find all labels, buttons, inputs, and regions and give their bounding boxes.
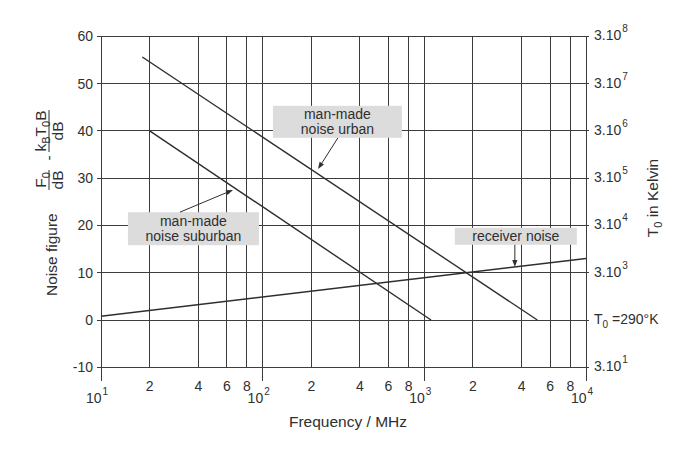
y-tick-label: 60 xyxy=(77,28,93,44)
annotation-label: receiver noise xyxy=(472,228,559,244)
right-axis-title: T0 in Kelvin xyxy=(644,159,664,238)
y-tick-label: 40 xyxy=(77,123,93,139)
gridlines xyxy=(97,36,589,381)
x-minor-tick-label: 6 xyxy=(385,378,393,394)
noise-figure-chart: man-madenoise urbanman-madenoise suburba… xyxy=(0,0,699,450)
y-title-operator: - xyxy=(40,155,57,160)
series-man-made-noise-urban xyxy=(142,57,537,320)
annotation-label: noise suburban xyxy=(146,228,242,244)
series-receiver-noise xyxy=(101,259,586,317)
annotation-label: man-made xyxy=(304,106,371,122)
x-axis-title: Frequency / MHz xyxy=(289,413,407,430)
y-tick-label: 30 xyxy=(77,170,93,186)
arrow-line xyxy=(322,138,338,163)
x-decade-tick-label: 103 xyxy=(409,386,432,406)
right-tick-label: 3.107 xyxy=(594,71,628,91)
x-minor-tick-label: 4 xyxy=(356,378,364,394)
y-tick-label: 20 xyxy=(77,217,93,233)
y-tick-label: 10 xyxy=(77,265,93,281)
y-title-fraction-1: F0dB xyxy=(32,170,66,190)
x-minor-tick-label: 2 xyxy=(146,378,154,394)
y-axis-tick-labels: -100102030405060 xyxy=(73,28,93,375)
y-tick-label: -10 xyxy=(73,359,93,375)
chart-canvas: man-madenoise urbanman-madenoise suburba… xyxy=(0,0,699,450)
x-minor-tick-label: 2 xyxy=(307,378,315,394)
annotation-label: man-made xyxy=(160,213,227,229)
right-tick-label: 3.108 xyxy=(594,23,628,43)
right-tick-label: 3.104 xyxy=(594,212,628,232)
arrowhead-icon xyxy=(318,162,324,169)
arrow-line xyxy=(180,193,227,213)
annotations: man-madenoise urbanman-madenoise suburba… xyxy=(128,106,577,267)
right-tick-label: 3.105 xyxy=(594,165,628,185)
right-tick-label: T0 =290°K xyxy=(594,311,659,330)
x-minor-tick-label: 6 xyxy=(546,378,554,394)
right-tick-label: 3.106 xyxy=(594,118,628,138)
data-series xyxy=(101,57,586,320)
x-minor-tick-label: 4 xyxy=(518,378,526,394)
y-tick-label: 50 xyxy=(77,76,93,92)
x-decade-tick-label: 104 xyxy=(571,386,594,406)
x-minor-tick-label: 6 xyxy=(223,378,231,394)
annotation-urban: man-madenoise urban xyxy=(273,106,402,169)
x-axis-tick-labels: 246824682468101102103104 xyxy=(86,378,594,406)
x-minor-tick-label: 4 xyxy=(194,378,202,394)
y-axis-title: Noise figureF0dB-kBT0BdB xyxy=(32,110,66,296)
x-decade-tick-label: 101 xyxy=(86,386,109,406)
annotation-suburban: man-madenoise suburban xyxy=(128,190,259,245)
y-title-fraction-2: kBT0BdB xyxy=(32,110,66,152)
annotation-label: noise urban xyxy=(301,121,374,137)
right-axis-title-text: T0 in Kelvin xyxy=(644,159,664,238)
y-tick-label: 0 xyxy=(85,312,93,328)
y-axis-title-text: Noise figure xyxy=(43,213,60,296)
x-minor-tick-label: 2 xyxy=(469,378,477,394)
arrowhead-icon xyxy=(512,260,517,267)
fraction-denominator: dB xyxy=(49,171,66,190)
x-decade-tick-label: 102 xyxy=(248,386,271,406)
fraction-denominator: dB xyxy=(49,122,66,141)
right-tick-label: 3.103 xyxy=(594,260,628,280)
right-tick-label: 3.101 xyxy=(594,354,628,374)
